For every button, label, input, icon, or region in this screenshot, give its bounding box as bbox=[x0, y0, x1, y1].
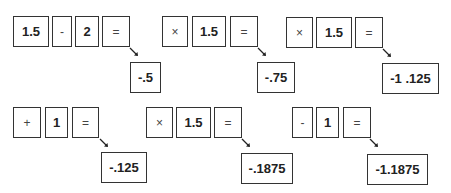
result-display: -1.1875 bbox=[367, 154, 428, 185]
key-equals: = bbox=[72, 107, 99, 138]
key-1: 1 bbox=[45, 107, 68, 138]
key-multiply: × bbox=[286, 17, 313, 48]
key-2: 2 bbox=[75, 16, 99, 47]
arrow-down-right-icon bbox=[381, 47, 393, 59]
result-display: -.125 bbox=[101, 152, 147, 183]
arrow-down-right-icon bbox=[368, 137, 380, 149]
key-1-5: 1.5 bbox=[316, 17, 352, 48]
arrow-down-right-icon bbox=[98, 137, 110, 149]
key-plus: + bbox=[13, 107, 41, 138]
arrow-down-right-icon bbox=[240, 137, 252, 149]
key-1-5: 1.5 bbox=[192, 16, 226, 47]
key-1-5: 1.5 bbox=[176, 107, 211, 138]
key-1-5: 1.5 bbox=[13, 16, 49, 47]
key-equals: = bbox=[230, 16, 258, 47]
key-equals: = bbox=[343, 107, 371, 138]
key-multiply: × bbox=[162, 16, 188, 47]
key-minus: - bbox=[52, 16, 72, 47]
result-display: -.5 bbox=[130, 62, 161, 93]
key-minus: - bbox=[292, 107, 313, 138]
result-display: -.1875 bbox=[241, 153, 293, 184]
key-multiply: × bbox=[146, 107, 173, 138]
key-1: 1 bbox=[316, 107, 339, 138]
arrow-down-right-icon bbox=[128, 46, 140, 58]
arrow-down-right-icon bbox=[256, 46, 268, 58]
key-equals: = bbox=[102, 16, 130, 47]
result-display: -.75 bbox=[257, 62, 295, 93]
result-display: -1 .125 bbox=[382, 63, 439, 94]
key-equals: = bbox=[355, 17, 383, 48]
key-equals: = bbox=[214, 107, 242, 138]
